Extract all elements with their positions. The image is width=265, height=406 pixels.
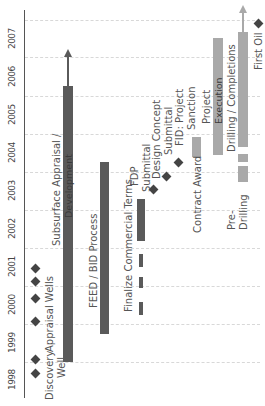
design-concept-milestone — [162, 172, 172, 182]
discovery-well-milestone — [31, 369, 41, 379]
pre-drilling-bar — [238, 166, 248, 182]
execution-label-2: Execution — [213, 77, 224, 124]
commercial-terms-bar — [137, 199, 145, 241]
pre-drilling-segment — [238, 154, 248, 162]
fid-label-2: Sanction — [186, 87, 197, 130]
pre-drilling-label-2: Drilling — [238, 194, 249, 230]
subsurface-arrow-shaft — [67, 56, 69, 86]
commercial-terms-segment — [139, 254, 143, 267]
appraisal-well-milestone — [31, 277, 41, 287]
fdp-label-1: FDP — [129, 167, 140, 186]
year-tick-1998: 1998 — [7, 370, 17, 390]
year-tick-2006: 2006 — [7, 67, 17, 87]
year-tick-2002: 2002 — [7, 219, 17, 239]
subsurface-label-2: Development — [63, 154, 74, 218]
gridline — [25, 96, 260, 97]
gridline — [25, 20, 260, 21]
commercial-terms-segment — [139, 277, 143, 288]
timeline-chart: 2007 2006 2005 2004 2003 2002 2001 2000 … — [0, 0, 265, 406]
year-tick-2007: 2007 — [7, 29, 17, 49]
commercial-terms-segment — [139, 302, 143, 315]
first-oil-milestone — [254, 19, 264, 29]
appraisal-well-milestone — [31, 294, 41, 304]
feed-bid-label: FEED / BID Process — [88, 214, 99, 308]
fid-label-1: FID: Project — [174, 89, 185, 146]
contract-award-bar — [192, 137, 201, 157]
contract-award-label: Contract Award — [192, 156, 203, 233]
discovery-label-1: Discovery — [44, 351, 55, 400]
year-tick-2004: 2004 — [7, 143, 17, 163]
drilling-label: Drilling / Completions — [226, 44, 237, 152]
year-axis-line — [24, 10, 25, 398]
pre-drilling-label-1: Pre- — [226, 210, 237, 230]
year-tick-2000: 2000 — [7, 295, 17, 315]
drilling-completions-bar — [238, 32, 248, 147]
arrow-up-icon — [64, 49, 72, 57]
first-oil-label: First Oil — [253, 32, 264, 70]
commercial-terms-label: Finalize Commercial Terms — [123, 179, 134, 312]
arrow-up-icon — [239, 5, 247, 13]
year-tick-2005: 2005 — [7, 105, 17, 125]
gridline — [25, 57, 260, 58]
fid-sanction-milestone — [174, 158, 184, 168]
year-tick-1999: 1999 — [7, 333, 17, 353]
design-concept-label-1: Design Concept — [151, 100, 162, 179]
design-concept-label-2: Submittal — [163, 107, 174, 155]
year-tick-2001: 2001 — [7, 257, 17, 277]
execution-label-1: Project — [201, 90, 212, 124]
appraisal-label: Appraisal Wells — [44, 276, 55, 352]
appraisal-well-milestone — [31, 264, 41, 274]
gridline — [25, 248, 260, 249]
subsurface-label-1: Subsurface Appraisal / — [51, 134, 62, 246]
subsurface-bar — [63, 86, 73, 362]
year-tick-2003: 2003 — [7, 181, 17, 201]
feed-bid-bar — [100, 162, 109, 334]
drilling-arrow-shaft — [242, 12, 244, 32]
gridline — [25, 324, 260, 325]
